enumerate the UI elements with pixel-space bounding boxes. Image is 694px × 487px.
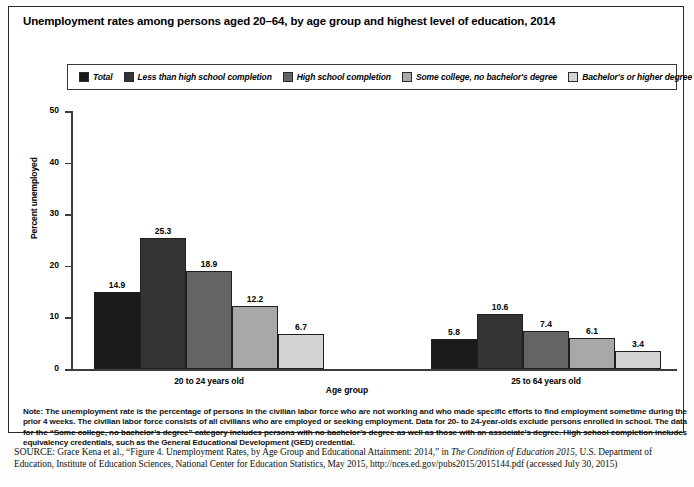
figure-frame: Unemployment rates among persons aged 20… [8,6,684,433]
legend-item: Bachelor's or higher degree [568,72,692,82]
bar [523,331,569,369]
legend-swatch-icon [402,72,412,82]
bar [615,351,661,369]
bar-value-label: 3.4 [615,339,661,349]
bar-value-label: 25.3 [140,226,186,236]
bar-value-label: 5.8 [431,327,477,337]
bar-value-label: 12.2 [232,294,278,304]
legend-item: Some college, no bachelor's degree [402,72,557,82]
bar [140,238,186,369]
y-axis-tick-label: 10 [35,311,59,321]
y-axis-tick: 0 [31,369,71,370]
legend-item-label: High school completion [297,72,391,82]
y-axis-tick-label: 0 [35,363,59,373]
y-axis-tick-label: 50 [35,105,59,115]
legend-item-label: Total [93,72,113,82]
figure-page: Unemployment rates among persons aged 20… [0,0,694,487]
page-title: Unemployment rates among persons aged 20… [23,15,555,27]
y-axis-tick-label: 20 [35,260,59,270]
figure-source: SOURCE: Grace Kena et al., “Figure 4. Un… [14,446,678,470]
legend-item: High school completion [283,72,391,82]
y-axis-tick: 20 [31,266,71,267]
y-axis-tick: 50 [31,111,71,112]
bar-value-label: 18.9 [186,259,232,269]
bar-value-label: 14.9 [94,280,140,290]
y-axis-tick: 40 [31,163,71,164]
y-axis-tick-label: 30 [35,208,59,218]
plot-area: 0102030405014.925.318.912.26.720 to 24 y… [71,111,677,369]
bar-value-label: 6.7 [278,322,324,332]
bar [186,271,232,369]
bar-value-label: 6.1 [569,326,615,336]
y-axis-tick-mark [65,266,71,268]
chart-legend: TotalLess than high school completionHig… [67,64,677,90]
bar [278,334,324,369]
legend-item: Total [79,72,113,82]
bar [431,339,477,369]
bar [477,314,523,369]
legend-swatch-icon [283,72,293,82]
y-axis-tick-mark [65,163,71,165]
y-axis-tick-label: 40 [35,157,59,167]
bar [569,338,615,369]
note-text: The unemployment rate is the percentage … [23,407,687,447]
x-axis-label: Age group [9,385,685,395]
bar-value-label: 7.4 [523,319,569,329]
source-text-part1: Grace Kena et al., “Figure 4. Unemployme… [55,447,451,457]
legend-item-label: Some college, no bachelor's degree [416,72,557,82]
legend-swatch-icon [568,72,578,82]
legend-item-label: Bachelor's or higher degree [582,72,692,82]
legend-item-label: Less than high school completion [138,72,272,82]
y-axis-tick-mark [65,369,71,371]
bar [232,306,278,369]
y-axis-tick-mark [65,111,71,113]
legend-swatch-icon [124,72,134,82]
note-prefix: Note: [23,407,43,416]
figure-note: Note: The unemployment rate is the perce… [23,407,687,449]
y-axis-tick-mark [65,317,71,319]
bar-value-label: 10.6 [477,302,523,312]
legend-swatch-icon [79,72,89,82]
x-axis-line [71,369,677,371]
y-axis-line [71,111,73,369]
source-prefix: SOURCE: [14,446,55,457]
y-axis-tick-mark [65,214,71,216]
y-axis-tick: 10 [31,317,71,318]
y-axis-label: Percent unemployed [29,157,39,239]
y-axis-tick: 30 [31,214,71,215]
legend-item: Less than high school completion [124,72,272,82]
bar [94,292,140,369]
source-publication-title: The Condition of Education 2015 [451,447,575,457]
